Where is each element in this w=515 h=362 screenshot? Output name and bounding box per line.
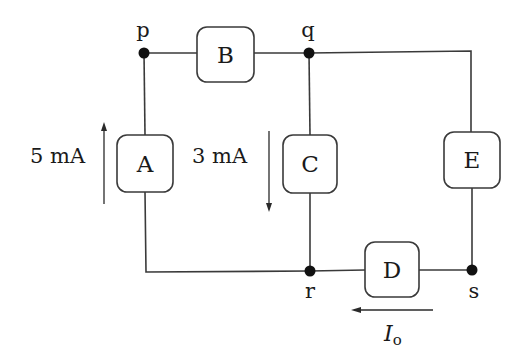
element-b-label: B — [217, 42, 234, 68]
node-q-label: q — [301, 18, 314, 42]
wire-q-c — [309, 53, 310, 135]
current-c-label: 3 mA — [192, 144, 248, 168]
arrow-down-icon — [266, 203, 272, 212]
current-a: 5 mA — [30, 122, 107, 204]
wire-p-a — [144, 53, 145, 135]
current-d-label-sub: o — [393, 331, 402, 349]
current-c: 3 mA — [192, 131, 272, 212]
wire-r-d — [310, 270, 365, 271]
element-e-label: E — [464, 147, 481, 173]
node-r-dot — [305, 266, 316, 277]
wire-q-e — [309, 51, 471, 132]
element-c-label: C — [301, 151, 319, 177]
wire-a-r — [145, 192, 310, 272]
element-c: C — [283, 135, 337, 193]
node-s-label: s — [469, 279, 480, 303]
arrow-left-icon — [351, 307, 361, 313]
node-p-label: p — [136, 18, 149, 42]
current-d-label: Io — [383, 321, 402, 349]
current-d: Io — [351, 307, 433, 349]
node-q-dot — [304, 48, 315, 59]
element-d-label: D — [383, 257, 401, 283]
element-a: A — [117, 135, 173, 192]
element-e: E — [444, 132, 500, 188]
element-a-label: A — [136, 151, 154, 177]
node-s-dot — [467, 265, 478, 276]
circuit-diagram: B A C E D p q r s 5 mA 3 mA — [0, 0, 515, 362]
element-d: D — [365, 242, 419, 297]
current-a-label: 5 mA — [30, 144, 86, 168]
arrow-up-icon — [101, 122, 107, 131]
node-p-dot — [139, 48, 150, 59]
element-b: B — [197, 27, 254, 82]
node-r-label: r — [305, 279, 316, 303]
